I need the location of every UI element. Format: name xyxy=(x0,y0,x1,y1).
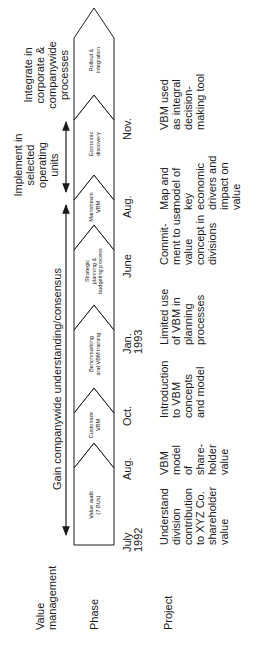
phase-label-5: Mainstream VBM xyxy=(88,182,101,232)
date-line: June xyxy=(122,254,133,278)
integrate-line: processes xyxy=(58,30,70,120)
project-description: Map and model of key economic drivers an… xyxy=(158,156,242,210)
integrate-line: corporate & xyxy=(34,30,46,120)
project-description: VBM model of share- holder value xyxy=(158,444,230,475)
project-description: VBM used as integral decision- making to… xyxy=(158,74,206,130)
implement-line: units xyxy=(48,125,60,205)
phase-label-2: Customize VBM xyxy=(88,400,101,450)
integrate-label: Integrate in corporate & companywide pro… xyxy=(22,30,70,120)
phase-label-4: Strategic planning & budgeting process xyxy=(84,236,104,306)
date-line: 1992 xyxy=(133,528,144,552)
phase-label-7: Rollout & integration xyxy=(88,30,101,90)
date-line: Aug. xyxy=(122,457,133,480)
date-line: 1993 xyxy=(133,330,144,354)
date-label: Jan. 1993 xyxy=(122,330,144,354)
date-line: Oct. xyxy=(122,406,133,426)
phase-label-line: discovery xyxy=(95,114,102,174)
project-description: Commit- ment to use value concept in div… xyxy=(158,208,218,265)
implement-line: operating xyxy=(36,125,48,205)
project-description: Understand division contribution to XYZ … xyxy=(158,487,230,545)
implement-label: Implement in selected operating units xyxy=(12,125,60,205)
project-description: Limited use of VBM in planning processes xyxy=(158,289,206,345)
vbm-timeline-diagram: Value management Phase Project Gain comp… xyxy=(0,0,260,652)
implement-line: Implement in xyxy=(12,125,24,205)
date-label: Nov. xyxy=(122,118,133,140)
phase-label-line: (7 BUs) xyxy=(95,470,102,540)
integrate-line: Integrate in xyxy=(22,30,34,120)
implement-line: selected xyxy=(24,125,36,205)
date-label: Aug. xyxy=(122,195,133,218)
date-label: June xyxy=(122,254,133,278)
phase-label-line: VBM xyxy=(95,182,102,232)
phase-label-line: and VBM training xyxy=(95,318,102,390)
phase-label-line: integration xyxy=(95,30,102,90)
phase-label-1: Value audit (7 BUs) xyxy=(88,470,101,540)
date-label: July 1992 xyxy=(122,528,144,552)
project-description: Introduction to VBM concepts and model xyxy=(158,361,206,418)
date-label: Oct. xyxy=(122,406,133,426)
gain-label: Gain companywide understanding/consensus xyxy=(51,268,63,490)
phase-label-3: Benchmarking and VBM training xyxy=(88,318,101,390)
integrate-line: companywide xyxy=(46,30,58,120)
date-line: Nov. xyxy=(122,118,133,140)
phase-label-line: VBM xyxy=(95,400,102,450)
date-line: Aug. xyxy=(122,195,133,218)
phase-label-6: Economic discovery xyxy=(88,114,101,174)
date-label: Aug. xyxy=(122,457,133,480)
phase-label-line: budgeting process xyxy=(97,236,104,306)
